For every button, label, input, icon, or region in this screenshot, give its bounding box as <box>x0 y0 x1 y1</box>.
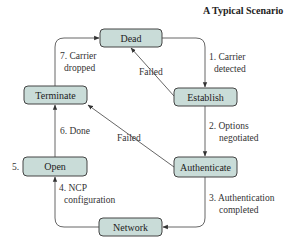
state-dead: Dead <box>100 29 162 47</box>
label-done: 6. Done <box>60 126 90 136</box>
state-terminate-label: Terminate <box>35 90 76 101</box>
state-establish: Establish <box>174 88 237 106</box>
label-auth-completed-2: completed <box>219 205 259 215</box>
diagram-title: A Typical Scenario <box>203 5 283 16</box>
state-establish-label: Establish <box>187 92 224 103</box>
state-authenticate: Authenticate <box>174 157 237 177</box>
label-auth-completed-1: 3. Authentication <box>209 193 275 203</box>
edge-auth-completed <box>163 177 205 227</box>
ppp-state-diagram: A Typical Scenario Dead Establish Termin… <box>0 0 299 248</box>
state-terminate: Terminate <box>24 86 87 104</box>
label-failed-establish: Failed <box>139 67 163 77</box>
label-options-negotiated-2: negotiated <box>219 133 259 143</box>
edge-carrier-dropped <box>55 38 99 86</box>
state-authenticate-label: Authenticate <box>180 162 232 173</box>
state-open-label: Open <box>44 161 66 172</box>
label-ncp-config-2: configuration <box>64 195 115 205</box>
label-open-step: 5. <box>12 162 19 172</box>
state-dead-label: Dead <box>120 33 141 44</box>
state-network: Network <box>99 218 162 236</box>
label-carrier-dropped-1: 7. Carrier <box>60 51 97 61</box>
label-ncp-config-1: 4. NCP <box>59 183 87 193</box>
label-failed-authenticate: Failed <box>117 133 141 143</box>
label-carrier-detected-2: detected <box>214 64 246 74</box>
edge-carrier-detected <box>162 38 205 87</box>
state-open: Open <box>23 157 87 176</box>
label-carrier-detected-1: 1. Carrier <box>209 52 246 62</box>
label-carrier-dropped-2: dropped <box>64 63 95 73</box>
label-options-negotiated-1: 2. Options <box>209 121 249 131</box>
state-network-label: Network <box>113 222 148 233</box>
